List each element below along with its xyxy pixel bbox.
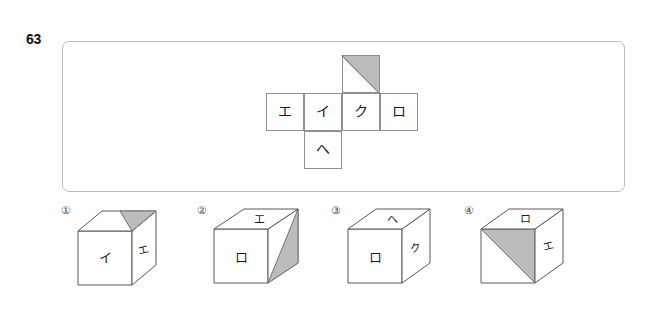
option-3-label: ③: [328, 203, 343, 218]
question-number: 63: [26, 31, 41, 47]
answer-option-1[interactable]: ① イ エ: [52, 199, 192, 295]
option-4-label: ④: [461, 203, 476, 218]
option-3-cube: ロ へ ク: [344, 199, 456, 291]
cube-top-glyph: ロ: [520, 213, 531, 225]
cube-front-glyph: ロ: [369, 250, 382, 265]
cube-front-glyph: ロ: [235, 250, 248, 265]
answer-option-3[interactable]: ③ ロ へ ク: [322, 199, 462, 295]
net-panel: エ イ ク ロ へ: [62, 41, 625, 192]
option-1-cube: イ エ: [74, 199, 186, 291]
net-cell-row1-col0: エ: [266, 93, 304, 131]
answer-option-2[interactable]: ② ロ エ: [188, 199, 328, 295]
cube-front-glyph: イ: [99, 250, 112, 265]
net-cell-label: ク: [354, 105, 368, 119]
option-2-cube: ロ エ: [210, 199, 322, 291]
shaded-triangle: [343, 56, 379, 92]
net-cell-row1-col1: イ: [304, 93, 342, 131]
cube-net-diagram: エ イ ク ロ へ: [266, 55, 418, 170]
net-cell-label: へ: [316, 143, 330, 157]
net-cell-label: エ: [278, 105, 292, 119]
net-cell-row1-col2: ク: [342, 93, 380, 131]
answer-options: ① イ エ ②: [0, 199, 651, 299]
net-cell-label: ロ: [392, 105, 406, 119]
option-1-label: ①: [58, 203, 73, 218]
net-cell-label: イ: [316, 105, 330, 119]
option-2-label: ②: [194, 203, 209, 218]
option-4-cube: ロ エ: [477, 199, 589, 291]
net-cell-row1-col3: ロ: [380, 93, 418, 131]
net-cell-row2-col1: へ: [304, 131, 342, 169]
net-cell-top-shaded: [342, 55, 380, 93]
cube-top-glyph: へ: [387, 213, 398, 225]
cube-top-glyph: エ: [254, 213, 265, 225]
answer-option-4[interactable]: ④ ロ エ: [455, 199, 595, 295]
